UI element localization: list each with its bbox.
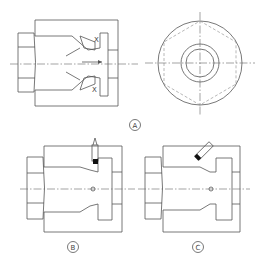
view-a-section: X X: [10, 20, 138, 106]
svg-text:A: A: [133, 122, 138, 130]
label-a: A: [130, 120, 141, 131]
view-c-section: [138, 142, 250, 232]
label-c: C: [193, 242, 204, 253]
svg-text:C: C: [196, 244, 201, 252]
label-b: B: [68, 242, 79, 253]
probe-vertical: [92, 145, 98, 161]
cone-seat-top: [80, 36, 95, 50]
body-section: [35, 20, 118, 106]
annotation-x-bottom: X: [92, 86, 97, 94]
annotation-x-top: X: [94, 36, 99, 44]
svg-text:B: B: [71, 244, 76, 252]
probe-angled: [194, 142, 213, 161]
technical-drawing: X X A B: [0, 0, 271, 268]
view-a-end: [145, 12, 255, 116]
hex-nut: [18, 33, 36, 92]
view-b-section: [20, 138, 135, 232]
